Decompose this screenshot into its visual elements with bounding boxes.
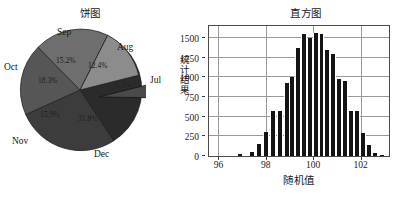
y-axis-tick-mark <box>202 37 205 38</box>
x-axis-tick-label: 100 <box>306 160 320 170</box>
y-axis-tick-label: 1250 <box>180 54 199 64</box>
pie-percent-jul: 6.3% <box>115 80 131 89</box>
pie-label-jul: Jul <box>150 75 161 85</box>
x-axis-tick-mark <box>218 157 219 160</box>
y-axis-tick-label: 1500 <box>180 34 199 44</box>
pie-label-oct: Oct <box>4 62 18 72</box>
histogram-bar[interactable] <box>379 155 385 156</box>
histogram-y-axis-ticks: 0250500750100012501500 <box>180 25 205 157</box>
two-chart-figure: 饼图 15.2% 12.4% <box>0 0 413 197</box>
y-axis-tick-mark <box>202 155 205 156</box>
pie-label-aug: Aug <box>117 42 133 52</box>
pie-percent-nov: 15.9% <box>40 110 59 119</box>
y-axis-tick-mark <box>202 116 205 117</box>
y-axis-tick-label: 1000 <box>180 73 199 83</box>
x-axis-tick-label: 98 <box>261 160 271 170</box>
pie-percent-sep: 15.2% <box>56 56 75 65</box>
y-axis-tick-label: 0 <box>194 152 199 162</box>
histogram-bar[interactable] <box>263 132 269 156</box>
histogram-plot-area <box>208 25 390 157</box>
x-axis-tick-mark <box>361 157 362 160</box>
y-axis-tick-mark <box>202 135 205 136</box>
y-axis-tick-mark <box>202 96 205 97</box>
x-axis-tick-label: 96 <box>214 160 224 170</box>
x-axis-tick-label: 102 <box>353 160 367 170</box>
histogram-bar[interactable] <box>277 111 283 156</box>
histogram-bar[interactable] <box>372 153 378 156</box>
histogram-bar[interactable] <box>237 154 243 156</box>
x-axis-tick-mark <box>313 157 314 160</box>
histogram-title: 直方图 <box>208 5 404 20</box>
y-axis-tick-label: 750 <box>185 93 199 103</box>
pie-chart-title: 饼图 <box>0 5 180 20</box>
pie-label-sep: Sep <box>57 27 71 37</box>
histogram-panel: 直方图 统 计 结 果 0250500750100012501500 96981… <box>180 0 413 197</box>
y-axis-tick-mark <box>202 76 205 77</box>
histogram-x-axis-label: 随机值 <box>208 172 390 187</box>
histogram-bar[interactable] <box>270 111 276 156</box>
y-axis-tick-mark <box>202 57 205 58</box>
histogram-bar[interactable] <box>256 144 262 156</box>
pie-percent-oct: 18.3% <box>38 76 57 85</box>
histogram-bars <box>209 26 389 156</box>
pie-chart-panel: 饼图 15.2% 12.4% <box>0 0 180 197</box>
pie-percent-dec: 31.8% <box>78 114 97 123</box>
histogram-bar[interactable] <box>249 152 255 156</box>
x-axis-tick-mark <box>266 157 267 160</box>
y-axis-tick-label: 500 <box>185 113 199 123</box>
pie-label-nov: Nov <box>12 136 28 146</box>
pie-label-dec: Dec <box>94 149 109 159</box>
y-axis-tick-label: 250 <box>185 132 199 142</box>
pie-percent-aug: 12.4% <box>88 61 107 70</box>
